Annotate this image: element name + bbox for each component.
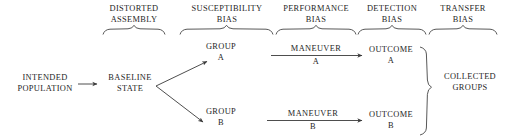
node-collected-groups: COLLECTED GROUPS: [437, 72, 503, 93]
header-detection-bias: DETECTION BIAS: [353, 4, 431, 25]
diagram-canvas: DISTORTED ASSEMBLY SUSCEPTIBILITY BIAS P…: [0, 0, 510, 140]
edge-label-maneuver-a: MANEUVER: [274, 44, 358, 55]
node-outcome-a: OUTCOME A: [365, 45, 417, 66]
node-group-a: GROUP A: [199, 42, 243, 63]
brace-susceptibility-bias: [180, 25, 273, 34]
edge-label-maneuver-b: MANEUVER: [271, 109, 355, 120]
node-group-b: GROUP B: [199, 107, 243, 128]
header-performance-bias: PERFORMANCE BIAS: [271, 4, 361, 25]
brace-collected-groups: [420, 47, 432, 135]
brace-distorted-assembly: [103, 25, 165, 34]
edge-label-maneuver-a-sub: A: [274, 57, 358, 68]
node-outcome-b: OUTCOME B: [365, 110, 417, 131]
brace-performance-bias: [276, 25, 356, 34]
arrow-baseline-state-to-group-b: [156, 86, 203, 122]
edge-label-maneuver-b-sub: B: [271, 122, 355, 133]
header-susceptibility-bias: SUSCEPTIBILITY BIAS: [181, 4, 273, 25]
brace-transfer-bias: [429, 25, 497, 34]
header-distorted-assembly: DISTORTED ASSEMBLY: [89, 4, 179, 25]
node-intended-population: INTENDED POPULATION: [10, 73, 80, 94]
arrow-baseline-state-to-group-a: [156, 62, 207, 87]
node-baseline-state: BASELINE STATE: [99, 73, 161, 94]
brace-detection-bias: [358, 25, 426, 34]
header-transfer-bias: TRANSFER BIAS: [424, 4, 502, 25]
